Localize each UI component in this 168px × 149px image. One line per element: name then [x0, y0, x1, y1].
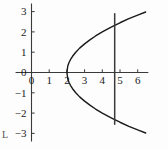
x-tick-label: 3 [82, 74, 88, 86]
y-tick-label: 1 [21, 46, 27, 58]
x-tick-label: 5 [117, 74, 123, 86]
y-tick-label: −1 [15, 87, 27, 99]
figure-label: L [2, 129, 8, 140]
y-tick-label: −2 [15, 107, 27, 119]
parabola-lower-branch [67, 73, 146, 133]
x-tick-label: 6 [135, 74, 141, 86]
parabola-upper-branch [67, 12, 146, 72]
x-tick-label: 0 [29, 74, 35, 86]
x-tick-label: 4 [100, 74, 106, 86]
figure-panel: 0123456−3−2−10123 L [0, 0, 168, 149]
y-tick-label: 2 [21, 26, 27, 38]
plot-canvas: 0123456−3−2−10123 [0, 0, 168, 149]
x-tick-label: 1 [46, 74, 52, 86]
y-tick-label: 0 [21, 66, 27, 78]
y-tick-label: −3 [15, 127, 27, 139]
y-tick-label: 3 [21, 5, 27, 17]
